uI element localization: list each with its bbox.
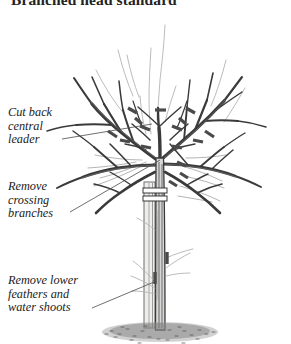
- callout-cut-back-central-leader: Cut back central leader: [8, 106, 52, 147]
- pruning-diagram-figure: Branched head standard: [0, 0, 291, 344]
- support-stake: [144, 182, 155, 328]
- ground: [102, 322, 218, 343]
- tree-trunk: [156, 158, 166, 330]
- callout-remove-lower-feathers-and-water-shoots: Remove lower feathers and water shoots: [8, 274, 78, 315]
- callout-remove-crossing-branches: Remove crossing branches: [8, 180, 53, 221]
- leader-line-cut-back-central-leader: [62, 124, 152, 139]
- branches-to-remove: [96, 25, 245, 134]
